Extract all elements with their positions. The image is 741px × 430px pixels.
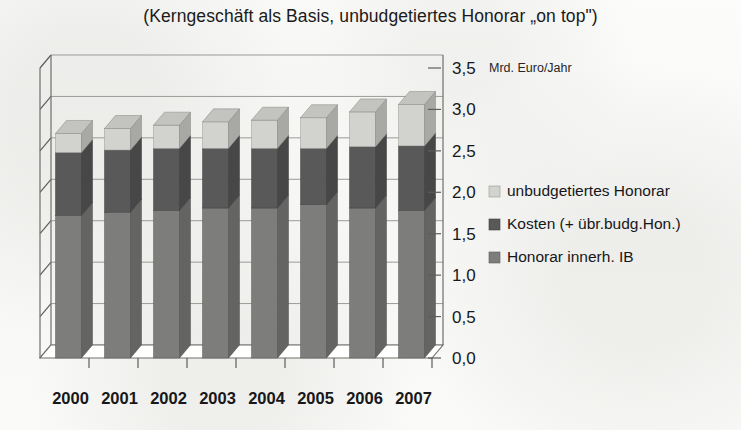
- y-axis-tick-label: 2,0: [452, 183, 476, 202]
- bar-segment-side: [425, 133, 436, 211]
- bar-stack: [399, 91, 436, 358]
- y-axis-tick-label: 0,0: [452, 349, 476, 368]
- y-axis-tick-label: 3,5: [452, 59, 476, 78]
- bar-segment-side: [82, 202, 93, 358]
- bar-segment-front: [399, 146, 425, 211]
- legend-label-2: Kosten (+ übr.budg.Hon.): [507, 215, 681, 232]
- chart-plot-area: 0,00,51,01,52,02,53,03,5 200020012002200…: [0, 0, 741, 430]
- bar-segment-side: [278, 195, 289, 358]
- bar-segment-front: [301, 148, 327, 204]
- bar-stack: [203, 109, 240, 358]
- bar-segment-side: [229, 195, 240, 358]
- axis-depth-connector: [40, 304, 51, 317]
- bar-segment-front: [399, 211, 425, 358]
- x-axis-year-label: 2003: [199, 389, 236, 407]
- bar-stack: [301, 105, 338, 358]
- bar-segment-side: [327, 192, 338, 358]
- bar-stack: [350, 99, 387, 358]
- y-axis-tick-label: 1,5: [452, 225, 476, 244]
- bar-segment-side: [376, 195, 387, 358]
- x-axis-year-label: 2005: [297, 389, 334, 407]
- bar-segment-front: [252, 120, 278, 148]
- axis-unit-label: Mrd. Euro/Jahr: [489, 61, 572, 75]
- x-axis-year-label: 2002: [150, 389, 187, 407]
- bar-segment-side: [131, 199, 142, 358]
- x-axis-year-label: 2000: [52, 389, 89, 407]
- bar-segment-front: [203, 208, 229, 358]
- axis-depth-connector: [40, 138, 51, 151]
- bar-segment-front: [301, 118, 327, 149]
- x-axis-year-label: 2001: [101, 389, 138, 407]
- axis-depth-connector: [40, 55, 51, 68]
- bar-segment-front: [350, 112, 376, 147]
- bar-segment-front: [56, 215, 82, 358]
- x-axis-year-label: 2004: [248, 389, 286, 407]
- legend-swatch-2: [489, 219, 500, 230]
- x-axis-year-label: 2006: [346, 389, 383, 407]
- bar-segment-front: [56, 153, 82, 216]
- bar-segment-front: [105, 128, 131, 150]
- legend-label-1: unbudgetiertes Honorar: [507, 182, 670, 199]
- x-axis-labels-group: 20002001200220032004200520062007: [52, 389, 432, 407]
- y-axis-tick-label: 2,5: [452, 142, 476, 161]
- y-axis-labels-group: 0,00,51,01,52,02,53,03,5: [452, 59, 476, 368]
- bar-segment-front: [203, 148, 229, 208]
- axis-depth-connector: [40, 262, 51, 275]
- bar-segment-front: [105, 150, 131, 212]
- y-axis-tick-label: 3,0: [452, 100, 476, 119]
- x-axis-year-label: 2007: [395, 389, 432, 407]
- bar-segment-front: [154, 125, 180, 148]
- bar-segment-side: [425, 198, 436, 358]
- bar-segment-front: [350, 208, 376, 358]
- bar-stack: [154, 112, 191, 358]
- bar-segment-front: [154, 148, 180, 210]
- legend-label-3: Honorar innerh. IB: [507, 248, 634, 265]
- legend-swatch-3: [489, 252, 500, 263]
- axis-depth-connector: [40, 96, 51, 109]
- bar-segment-front: [301, 205, 327, 358]
- legend-group: unbudgetiertes HonorarKosten (+ übr.budg…: [489, 182, 681, 265]
- stacked-bar-chart-svg: 0,00,51,01,52,02,53,03,5 200020012002200…: [0, 0, 741, 430]
- axis-depth-connector: [40, 221, 51, 234]
- bar-stack: [252, 107, 289, 358]
- bar-stack: [105, 115, 142, 358]
- bar-segment-front: [350, 147, 376, 208]
- axis-unit-label-group: Mrd. Euro/Jahr: [489, 61, 572, 75]
- bar-segment-front: [399, 104, 425, 145]
- bar-segment-front: [203, 122, 229, 149]
- y-axis-tick-label: 1,0: [452, 266, 476, 285]
- bar-segment-front: [154, 211, 180, 358]
- y-axis-tick-label: 0,5: [452, 308, 476, 327]
- bar-stack: [56, 120, 93, 358]
- bar-segment-side: [180, 198, 191, 358]
- bar-segment-front: [252, 148, 278, 208]
- legend-swatch-1: [489, 186, 500, 197]
- bar-segment-front: [105, 212, 131, 358]
- bar-segment-front: [252, 208, 278, 358]
- bars-group: [56, 91, 436, 358]
- bar-segment-front: [56, 133, 82, 152]
- axis-depth-connector: [40, 179, 51, 192]
